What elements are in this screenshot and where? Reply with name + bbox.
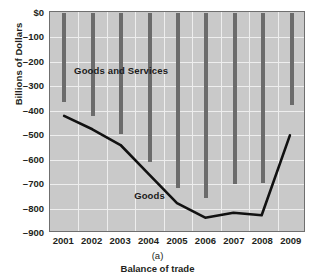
x-axis-title: Balance of trade — [0, 263, 315, 274]
y-axis-tick-label: $0 — [0, 7, 44, 18]
goods-line-path — [64, 116, 290, 218]
y-axis-tick-labels: $0–100–200–300–400–500–600–700–800–900 — [0, 0, 47, 240]
plot-area: Goods and ServicesGoods — [49, 11, 305, 232]
series-annotation: Goods — [134, 190, 165, 201]
y-axis-tick-label: –400 — [0, 104, 44, 115]
y-axis-tick-label: –100 — [0, 31, 44, 42]
y-axis-tick-label: –800 — [0, 202, 44, 213]
y-axis-tick-label: –500 — [0, 129, 44, 140]
y-axis-tick-label: –200 — [0, 55, 44, 66]
x-axis-tick-label: 2009 — [271, 235, 311, 246]
balance-of-trade-figure: Billions of Dollars $0–100–200–300–400–5… — [0, 0, 315, 279]
series-annotation: Goods and Services — [74, 65, 168, 76]
y-axis-tick-label: –700 — [0, 178, 44, 189]
x-axis-tick-labels: 200120022003200420052006200720082009 — [0, 235, 315, 249]
panel-letter: (a) — [0, 250, 315, 261]
line-series-goods — [50, 12, 304, 231]
y-axis-tick-label: –300 — [0, 80, 44, 91]
y-axis-tick-label: –600 — [0, 153, 44, 164]
